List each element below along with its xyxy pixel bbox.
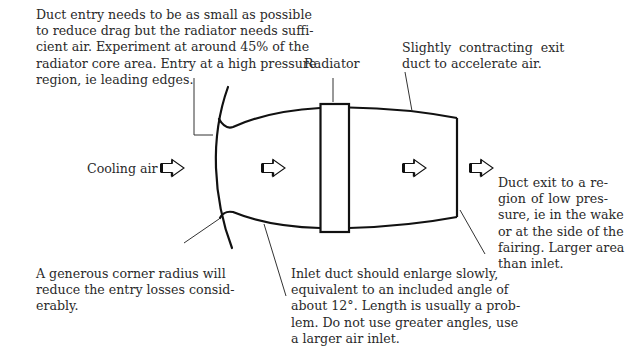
flow-arrow-icon: [263, 160, 286, 177]
leader-duct-exit: [460, 210, 485, 254]
annotation-line: cient air. Experiment at around 45% of t…: [36, 39, 290, 55]
leader-corner-radius: [184, 219, 219, 243]
annotation-line: Duct entry needs to be as small as possi…: [36, 7, 290, 23]
annotation-line: reduce the entry losses consid-: [36, 282, 218, 298]
leader-inlet-duct: [264, 224, 286, 296]
annotation-corner-radius: A generous corner radius will reduce the…: [36, 266, 218, 315]
annotation-line: sure, ie in the wake: [498, 207, 608, 223]
annotation-line: to reduce drag but the radiator needs su…: [36, 23, 290, 39]
annotation-line: gion of low pres-: [498, 191, 608, 207]
annotation-line: about 12°. Length is usually a prob-: [291, 298, 491, 314]
annotation-line: Inlet duct should enlarge slowly,: [291, 266, 491, 282]
flow-arrow-icon: [404, 160, 427, 177]
exit-wall-upper: [349, 108, 457, 119]
radiator-core: [321, 104, 350, 232]
flow-arrow-icon: [162, 160, 185, 177]
annotation-entry: Duct entry needs to be as small as possi…: [36, 7, 290, 88]
leader-exit-duct: [405, 72, 412, 111]
annotation-line: equivalent to an included angle of: [291, 282, 491, 298]
annotation-line: A generous corner radius will: [36, 266, 218, 282]
annotation-duct-exit: Duct exit to a re- gion of low pres- sur…: [498, 175, 608, 272]
annotation-exit-duct: Slightly contracting exit duct to accele…: [402, 40, 572, 72]
fairing-curve: [216, 87, 232, 248]
annotation-line: a larger air inlet.: [291, 331, 491, 347]
inlet-wall-upper: [219, 108, 320, 128]
annotation-line: fairing. Larger area: [498, 240, 608, 256]
annotation-line: than inlet.: [498, 256, 608, 272]
exit-wall-lower: [349, 217, 457, 228]
annotation-line: region, ie leading edges.: [36, 72, 290, 88]
annotation-line: radiator core area. Entry at a high pres…: [36, 56, 290, 72]
label-cooling-air: Cooling air: [87, 161, 158, 176]
annotation-line: Duct exit to a re-: [498, 175, 608, 191]
annotation-line: erably.: [36, 298, 218, 314]
annotation-line: or at the side of the: [498, 224, 608, 240]
annotation-line: duct to accelerate air.: [402, 56, 572, 72]
annotation-inlet-duct: Inlet duct should enlarge slowly, equiva…: [291, 266, 491, 347]
inlet-wall-lower: [220, 212, 320, 228]
flow-arrow-icon: [471, 160, 494, 177]
annotation-line: Slightly contracting exit: [402, 40, 572, 56]
annotation-line: lem. Do not use greater angles, use: [291, 315, 491, 331]
